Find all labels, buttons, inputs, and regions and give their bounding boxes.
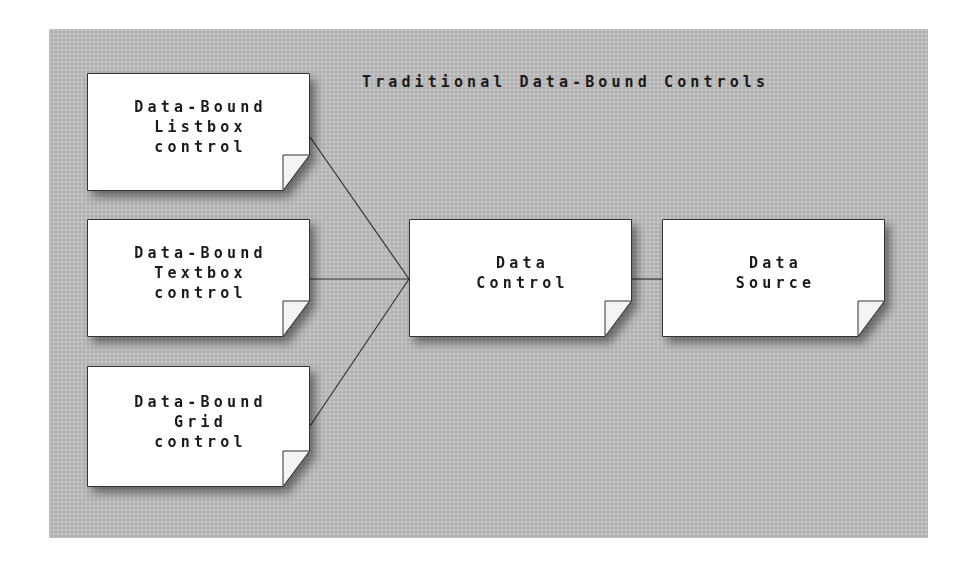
node-label-line: control: [154, 432, 247, 452]
node-data-bound-listbox: Data-Bound Listbox control: [87, 73, 310, 191]
node-label-line: Data-Bound: [134, 97, 266, 117]
node-label-line: Textbox: [154, 263, 247, 283]
node-label-line: Source: [736, 273, 815, 293]
node-label-line: Control: [476, 273, 569, 293]
node-label-line: Data: [749, 253, 802, 273]
node-data-bound-grid: Data-Bound Grid control: [87, 366, 310, 487]
node-data-bound-textbox: Data-Bound Textbox control: [87, 219, 310, 337]
node-label-line: Grid: [174, 412, 227, 432]
node-label-line: control: [154, 283, 247, 303]
node-data-control: Data Control: [409, 219, 632, 337]
node-label-line: control: [154, 137, 247, 157]
node-label-line: Data: [496, 253, 549, 273]
node-label-line: Data-Bound: [134, 243, 266, 263]
node-label-line: Data-Bound: [134, 392, 266, 412]
node-data-source: Data Source: [662, 219, 885, 337]
node-label-line: Listbox: [154, 117, 247, 137]
diagram-title: Traditional Data-Bound Controls: [362, 73, 769, 91]
